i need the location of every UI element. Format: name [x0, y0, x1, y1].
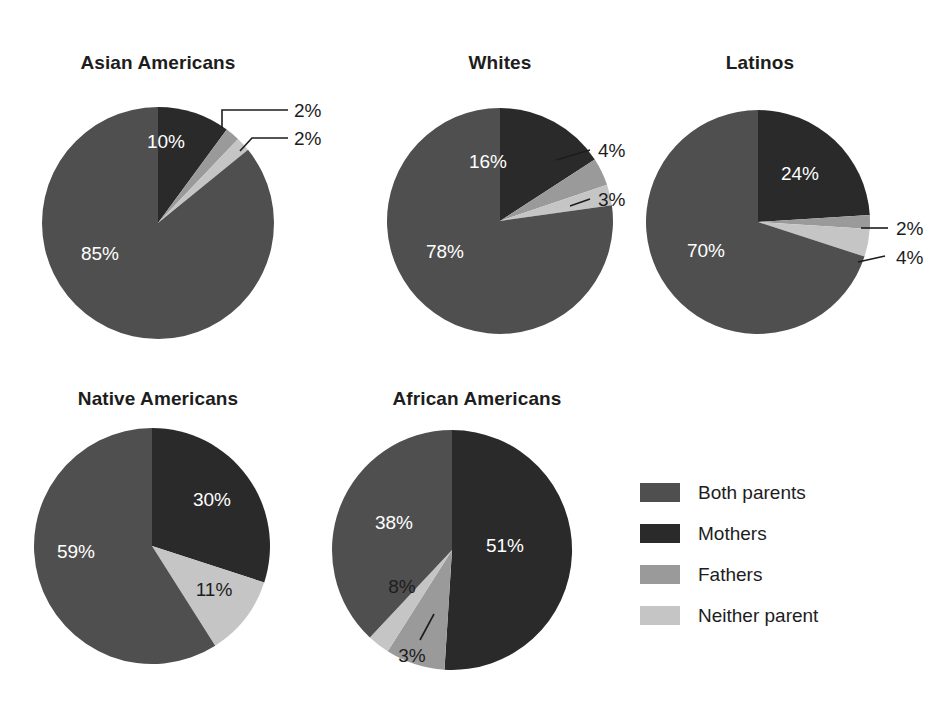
slice-label-mothers: 51% [486, 535, 524, 556]
pie-chart-grid: Asian Americans 85% 10% 2% 2% Whites [0, 0, 946, 718]
legend-item-neither-parent: Neither parent [640, 595, 940, 636]
legend-swatch-both-parents [640, 483, 680, 502]
legend-label-mothers: Mothers [698, 523, 767, 545]
pie-labels-african-americans: 38% 51% 8% 3% [312, 340, 672, 718]
callout-label-neither-parent: 3% [398, 645, 426, 666]
legend-label-fathers: Fathers [698, 564, 762, 586]
slice-label-mothers: 10% [147, 131, 185, 152]
slice-label-both-parents: 38% [375, 512, 413, 533]
slice-label-fathers: 8% [388, 576, 416, 597]
slice-label-both-parents: 78% [426, 241, 464, 262]
legend-swatch-mothers [640, 524, 680, 543]
callout-label-fathers: 2% [896, 218, 924, 239]
pie-labels-latinos: 70% 24% 2% 4% [600, 0, 946, 360]
slice-label-neither-parent: 11% [196, 579, 233, 600]
pie-labels-native-americans: 59% 30% 11% [0, 340, 360, 718]
legend-swatch-neither-parent [640, 606, 680, 625]
slice-label-mothers: 30% [193, 489, 231, 510]
slice-label-both-parents: 70% [687, 240, 725, 261]
legend-item-both-parents: Both parents [640, 472, 940, 513]
slice-label-mothers: 16% [469, 151, 507, 172]
legend-item-mothers: Mothers [640, 513, 940, 554]
legend-item-fathers: Fathers [640, 554, 940, 595]
pie-labels-asian-americans: 85% 10% 2% 2% [0, 0, 360, 360]
slice-label-both-parents: 59% [57, 541, 95, 562]
callout-label-neither-parent: 2% [294, 128, 322, 149]
legend-label-neither-parent: Neither parent [698, 605, 818, 627]
legend-label-both-parents: Both parents [698, 482, 806, 504]
legend-swatch-fathers [640, 565, 680, 584]
slice-label-both-parents: 85% [81, 243, 119, 264]
callout-label-fathers: 2% [294, 100, 322, 121]
callout-label-neither-parent: 4% [896, 247, 924, 268]
slice-label-mothers: 24% [781, 163, 819, 184]
legend: Both parents Mothers Fathers Neither par… [640, 472, 940, 636]
